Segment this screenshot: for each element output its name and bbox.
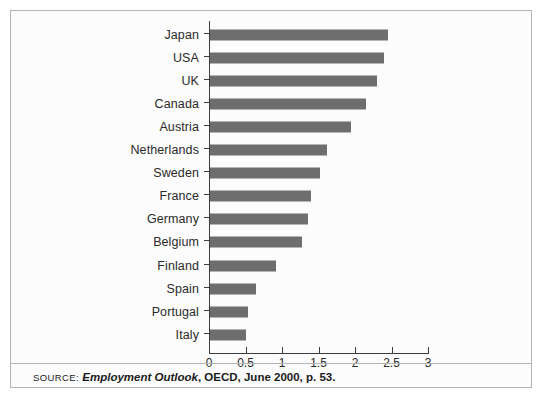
bar-row: Finland bbox=[11, 254, 531, 277]
category-label-belgium: Belgium bbox=[153, 235, 199, 249]
category-label-sweden: Sweden bbox=[153, 166, 199, 180]
bar-netherlands bbox=[209, 145, 327, 156]
bar-italy bbox=[209, 329, 246, 340]
bar-row: Austria bbox=[11, 115, 531, 138]
figure-frame: JapanUSAUKCanadaAustriaNetherlandsSweden… bbox=[10, 10, 532, 388]
category-label-spain: Spain bbox=[167, 282, 199, 296]
source-rest: , OECD, June 2000, p. 53. bbox=[198, 371, 335, 383]
bar-germany bbox=[209, 214, 308, 225]
x-tick bbox=[355, 347, 356, 353]
bar-row: Belgium bbox=[11, 231, 531, 254]
bar-row: Sweden bbox=[11, 162, 531, 185]
category-label-germany: Germany bbox=[147, 212, 199, 226]
source-keyword: SOURCE: bbox=[33, 372, 79, 383]
bar-row: USA bbox=[11, 46, 531, 69]
bar-row: France bbox=[11, 185, 531, 208]
bar-row: Netherlands bbox=[11, 139, 531, 162]
bar-finland bbox=[209, 260, 276, 271]
bar-canada bbox=[209, 98, 366, 109]
bar-usa bbox=[209, 52, 384, 63]
category-label-austria: Austria bbox=[159, 120, 199, 134]
x-axis-line bbox=[209, 353, 429, 354]
x-tick bbox=[319, 347, 320, 353]
bar-uk bbox=[209, 75, 377, 86]
category-label-uk: UK bbox=[181, 74, 199, 88]
bar-row: Italy bbox=[11, 323, 531, 346]
bar-belgium bbox=[209, 237, 302, 248]
bar-row: Germany bbox=[11, 208, 531, 231]
category-label-canada: Canada bbox=[155, 97, 199, 111]
source-title: Employment Outlook bbox=[82, 371, 198, 383]
x-tick bbox=[428, 347, 429, 353]
bar-portugal bbox=[209, 306, 248, 317]
x-tick bbox=[246, 347, 247, 353]
bar-row: Spain bbox=[11, 277, 531, 300]
y-axis-line bbox=[209, 21, 210, 348]
category-label-japan: Japan bbox=[164, 28, 199, 42]
bar-france bbox=[209, 191, 311, 202]
bar-row: Canada bbox=[11, 92, 531, 115]
chart-plot-area: JapanUSAUKCanadaAustriaNetherlandsSweden… bbox=[11, 11, 531, 363]
bar-row: Japan bbox=[11, 23, 531, 46]
category-label-finland: Finland bbox=[157, 259, 199, 273]
bar-spain bbox=[209, 283, 256, 294]
bar-row: Portugal bbox=[11, 300, 531, 323]
bar-austria bbox=[209, 121, 351, 132]
category-label-usa: USA bbox=[173, 51, 199, 65]
bar-row: UK bbox=[11, 69, 531, 92]
x-tick bbox=[392, 347, 393, 353]
footer-divider bbox=[11, 363, 531, 364]
x-tick bbox=[282, 347, 283, 353]
category-label-netherlands: Netherlands bbox=[130, 143, 199, 157]
category-label-italy: Italy bbox=[176, 328, 199, 342]
category-label-portugal: Portugal bbox=[152, 305, 199, 319]
source-note: SOURCE: Employment Outlook, OECD, June 2… bbox=[33, 371, 335, 383]
bar-sweden bbox=[209, 168, 320, 179]
bar-japan bbox=[209, 29, 388, 40]
category-label-france: France bbox=[159, 189, 199, 203]
